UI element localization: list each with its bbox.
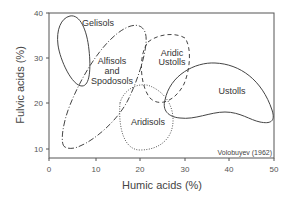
y-tick-20: 20 xyxy=(34,99,43,108)
label-alfisols: Alfisols xyxy=(98,56,127,66)
y-tick-30: 30 xyxy=(34,54,43,63)
source-citation: Volobuyev (1962) xyxy=(218,149,272,157)
label-ustolls: Ustolls xyxy=(218,86,246,96)
x-tick-20: 20 xyxy=(136,165,145,174)
x-tick-10: 10 xyxy=(92,165,101,174)
x-tick-50: 50 xyxy=(270,165,279,174)
x-axis-label: Humic acids (%) xyxy=(122,179,202,191)
label-ustolls-aridic: Ustolls xyxy=(158,57,186,67)
y-tick-10: 10 xyxy=(34,145,43,154)
x-tick-30: 30 xyxy=(181,165,190,174)
diagram: 10 20 30 40 0 10 20 30 40 50 Humic acids… xyxy=(0,0,292,201)
label-and: and xyxy=(104,66,119,76)
region-alfisols-spodosols xyxy=(62,25,146,148)
label-spodosols: Spodosols xyxy=(91,76,134,86)
y-axis-label: Fulvic acids (%) xyxy=(14,46,26,124)
label-aridisols: Aridisols xyxy=(131,117,166,127)
y-tick-40: 40 xyxy=(34,9,43,18)
x-tick-40: 40 xyxy=(225,165,234,174)
x-tick-0: 0 xyxy=(47,165,52,174)
label-gelisols: Gelisols xyxy=(82,18,115,28)
region-aridic-ustolls xyxy=(141,35,189,103)
